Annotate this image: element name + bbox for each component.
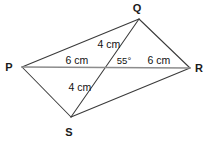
vertex-label-r: R xyxy=(195,62,203,74)
edge-s-p xyxy=(22,67,71,117)
vertex-label-q: Q xyxy=(133,2,142,14)
geometry-figure: P Q R S 4 cm 6 cm 6 cm 4 cm 55° xyxy=(0,0,210,143)
geometry-diagram-canvas: P Q R S 4 cm 6 cm 6 cm 4 cm 55° xyxy=(0,0,210,143)
diagonal-p-r xyxy=(22,67,190,68)
measure-label-or: 6 cm xyxy=(148,54,171,66)
measure-label-os: 4 cm xyxy=(69,81,92,93)
vertex-label-p: P xyxy=(5,61,12,73)
vertex-label-s: S xyxy=(65,126,72,138)
measure-label-po: 6 cm xyxy=(66,54,89,66)
measure-label-qo: 4 cm xyxy=(98,38,121,50)
angle-label-55: 55° xyxy=(117,55,132,66)
